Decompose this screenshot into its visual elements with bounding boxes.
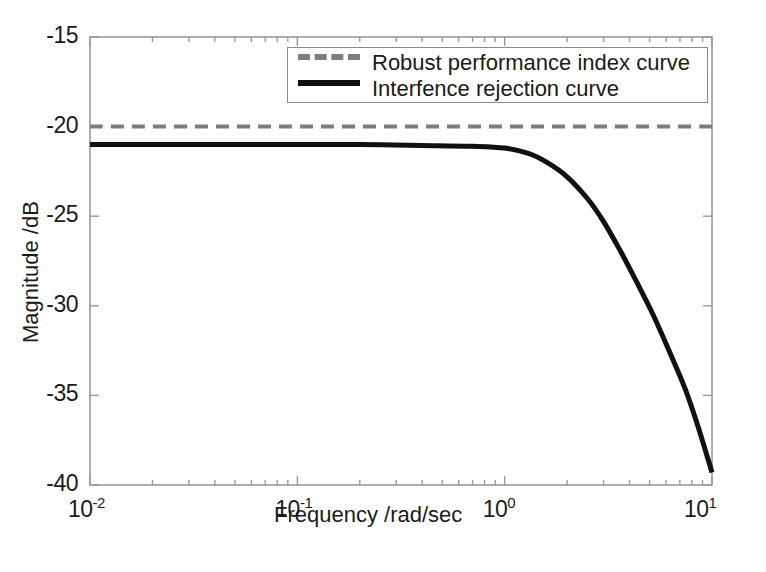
ytick-label: -35: [0, 380, 78, 407]
xtick-label: 101: [684, 494, 716, 523]
xtick-base: 10: [68, 496, 93, 522]
xtick-exponent: 1: [709, 494, 717, 511]
legend-label: Interfence rejection curve: [372, 78, 619, 100]
legend-swatch-solid-icon: [298, 80, 360, 98]
xtick-exponent: 0: [507, 494, 515, 511]
ytick-label: -20: [0, 112, 78, 139]
xtick-exponent: -2: [93, 494, 105, 511]
legend-entry-robust-performance: Robust performance index curve: [288, 50, 707, 76]
axes-frame: [90, 37, 712, 485]
y-axis-label: Magnitude /dB: [18, 201, 44, 343]
legend-swatch-dashed-icon: [298, 54, 360, 72]
figure-canvas: -15 -20 -25 -30 -35 -40 10-2 10-1 100 10…: [0, 0, 766, 572]
xtick-label: 100: [483, 494, 515, 523]
xtick-base: 10: [483, 496, 508, 522]
legend-label: Robust performance index curve: [372, 52, 690, 74]
legend-entry-interference-rejection: Interfence rejection curve: [288, 76, 707, 102]
xtick-label: 10-2: [68, 494, 105, 523]
xtick-base: 10: [684, 496, 709, 522]
legend: Robust performance index curve Interfenc…: [287, 47, 708, 103]
x-axis-label: Frequency /rad/sec: [274, 502, 462, 528]
ytick-label: -40: [0, 470, 78, 497]
ytick-label: -15: [0, 22, 78, 49]
